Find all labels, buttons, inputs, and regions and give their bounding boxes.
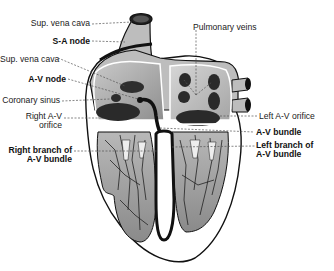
pulmonary-vein-opening-2 — [208, 74, 220, 90]
pulmonary-vein-opening-1 — [179, 73, 191, 87]
coronary-sinus — [111, 94, 121, 102]
label-sa-node: S-A node — [30, 37, 90, 46]
label-left-branch-line2: A-V bundle — [256, 150, 301, 159]
label-av-bundle: A-V bundle — [256, 128, 301, 137]
label-right-av-orifice-line2: orifice — [10, 121, 62, 130]
label-sup-vena-cava-inner: Sup. vena cava — [0, 55, 59, 64]
label-coronary-sinus: Coronary sinus — [0, 96, 60, 105]
label-pulmonary-veins: Pulmonary veins — [193, 23, 257, 32]
pulmonary-vein-opening-3 — [178, 91, 190, 103]
label-left-av-orifice: Left A-V orifice — [259, 112, 315, 121]
right-av-orifice — [96, 103, 140, 121]
label-right-branch-line2: A-V bundle — [0, 155, 72, 164]
svc-inner-opening — [120, 81, 144, 93]
interventricular-septum — [156, 131, 174, 240]
label-av-node: A-V node — [10, 75, 66, 84]
pulmonary-vein-opening-4 — [208, 92, 220, 110]
label-sup-vena-cava-top: Sup. vena cava — [24, 19, 90, 28]
